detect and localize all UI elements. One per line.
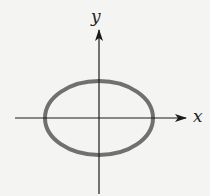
y-axis-label: y xyxy=(91,8,101,25)
ellipse-diagram: y x xyxy=(0,0,210,196)
diagram-graphic xyxy=(0,0,210,196)
x-axis-label: x xyxy=(193,108,203,125)
